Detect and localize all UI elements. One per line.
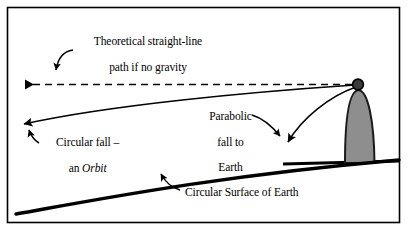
label-parabolic-fall: Parabolic fall to Earth [190, 97, 260, 187]
label-theoretical-path: Theoretical straight-line path if no gra… [0, 22, 285, 86]
label-theoretical-line1: Theoretical straight-line [94, 35, 202, 47]
mountain-shape [345, 90, 375, 163]
label-circular-fall-orbit: Circular fall – an Orbit [24, 123, 140, 187]
label-theoretical-line2: path if no gravity [109, 61, 187, 73]
label-orbit-line1: Circular fall – [56, 136, 119, 148]
label-orbit-word: Orbit [82, 162, 106, 174]
diagram-canvas: Theoretical straight-line path if no gra… [0, 0, 412, 232]
label-circular-surface: Circular Surface of Earth [185, 186, 298, 199]
label-parabolic-line2: fall to [217, 136, 243, 148]
label-parabolic-line3: Earth [218, 161, 242, 173]
label-parabolic-line1: Parabolic [209, 110, 252, 122]
label-orbit-line2-prefix: an [69, 162, 82, 174]
projectile-dot [353, 79, 364, 90]
